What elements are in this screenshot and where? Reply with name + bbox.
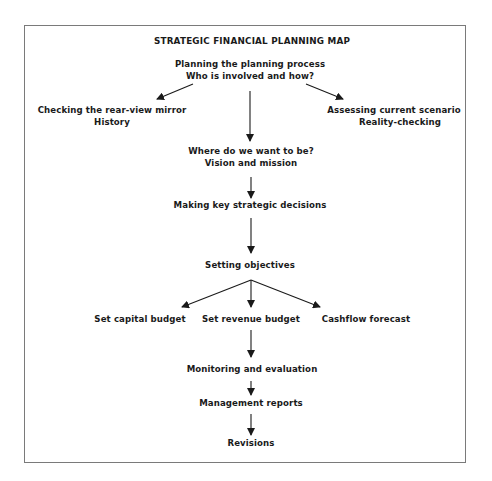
- arrow-planning-to-scenario: [306, 84, 343, 99]
- arrow-objectives-to-capital: [182, 280, 251, 307]
- connector-arrows: [0, 0, 492, 481]
- arrow-planning-to-history: [157, 84, 193, 99]
- arrow-objectives-to-cashflow: [251, 280, 320, 307]
